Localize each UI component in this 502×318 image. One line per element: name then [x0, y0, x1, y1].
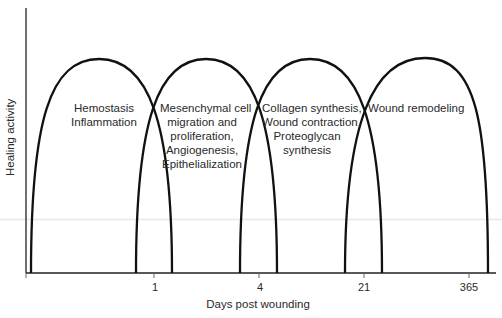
phase-label-line: Angiogenesis, [160, 143, 244, 157]
phase-label-collagen: Collagen synthesis, Wound contraction, P… [262, 101, 352, 157]
phase-label-line: synthesis [262, 143, 352, 157]
phase-arch-hemostasis [31, 59, 172, 273]
x-axis-title: Days post wounding [206, 298, 310, 310]
phase-label-line: migration and [160, 115, 244, 129]
phase-arch-collagen [240, 59, 382, 273]
phase-label-line: Hemostasis [70, 101, 138, 115]
x-tick-label-4: 4 [257, 281, 263, 293]
phase-label-line: Epithelialization [160, 157, 244, 171]
phase-label-proliferation: Mesenchymal cell migration and prolifera… [160, 101, 244, 171]
phase-label-line: Proteoglycan [262, 129, 352, 143]
x-tick-label-365: 365 [460, 281, 478, 293]
phase-label-line: Wound contraction, [262, 115, 352, 129]
phase-label-line: Mesenchymal cell [160, 101, 244, 115]
phase-label-line: Wound remodeling [368, 101, 456, 115]
phase-label-line: Collagen synthesis, [262, 101, 352, 115]
phase-arch-remodeling [345, 58, 488, 273]
y-axis-title: Healing activity [4, 99, 16, 176]
x-tick-label-21: 21 [358, 281, 370, 293]
phase-label-hemostasis: Hemostasis Inflammation [70, 101, 138, 129]
healing-phases-diagram: Hemostasis Inflammation Mesenchymal cell… [0, 0, 502, 318]
x-tick-label-1: 1 [152, 281, 158, 293]
phase-label-line: Inflammation [70, 115, 138, 129]
phase-label-remodeling: Wound remodeling [368, 101, 456, 115]
phase-label-line: proliferation, [160, 129, 244, 143]
diagram-graphics [0, 0, 502, 318]
